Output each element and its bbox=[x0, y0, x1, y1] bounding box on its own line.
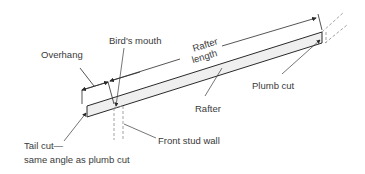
rafter-diagram: Bird's mouth Overhang Rafter length Plum… bbox=[0, 0, 365, 174]
label-birds-mouth: Bird's mouth bbox=[109, 35, 162, 46]
front-stud-wall bbox=[114, 106, 123, 140]
label-front-stud-wall: Front stud wall bbox=[158, 135, 220, 146]
rafter-diagram-svg: Bird's mouth Overhang Rafter length Plum… bbox=[0, 0, 365, 174]
front-stud-wall-leader bbox=[124, 124, 156, 138]
label-rafter: Rafter bbox=[195, 103, 221, 114]
ridge-dashed bbox=[322, 12, 347, 43]
label-tail-cut-desc: same angle as plumb cut bbox=[24, 154, 130, 165]
label-overhang: Overhang bbox=[41, 49, 83, 60]
tail-cut-leader bbox=[64, 113, 86, 141]
label-tail-cut: Tail cut— bbox=[24, 140, 64, 151]
label-plumb-cut: Plumb cut bbox=[252, 80, 295, 91]
